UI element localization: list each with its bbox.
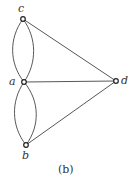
edge-c-a-left xyxy=(13,19,24,82)
edge-c-a-right xyxy=(23,19,34,82)
labels: c a d b (b) xyxy=(9,2,128,176)
edge-a-d xyxy=(24,81,116,82)
vertex-label-a: a xyxy=(9,75,16,88)
edge-a-b-left xyxy=(14,82,26,145)
vertex-label-b: b xyxy=(22,149,29,162)
vertex-b xyxy=(24,143,29,148)
vertex-label-c: c xyxy=(18,2,24,15)
vertex-a xyxy=(22,80,27,85)
vertex-label-d: d xyxy=(121,74,128,87)
edge-b-d xyxy=(26,81,116,145)
edge-c-d xyxy=(23,19,116,81)
graph-diagram: c a d b (b) xyxy=(0,0,137,178)
edges xyxy=(13,19,116,145)
vertex-c xyxy=(21,17,26,22)
figure-caption: (b) xyxy=(58,163,74,176)
vertex-d xyxy=(114,79,119,84)
edge-a-b-right xyxy=(24,82,36,145)
